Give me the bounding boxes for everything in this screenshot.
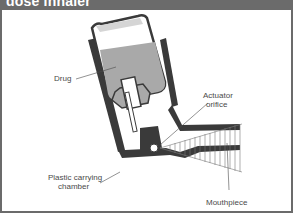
label-mouthpiece: Mouthpiece <box>206 198 247 207</box>
actuator-block <box>140 126 165 155</box>
label-chamber-line2: chamber <box>58 182 89 191</box>
label-actuator-line1: Actuator <box>203 91 233 100</box>
label-drug: Drug <box>54 74 71 83</box>
label-actuator-line2: orifice <box>206 100 227 109</box>
canister-shape <box>92 15 165 132</box>
inhaler-illustration <box>0 0 293 213</box>
label-chamber-line1: Plastic carrying <box>48 173 102 182</box>
